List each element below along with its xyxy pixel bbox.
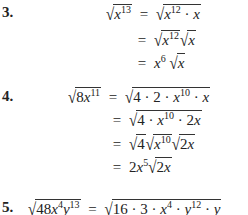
problem-3-line-1: √x13=√x12 · x xyxy=(106,4,201,23)
problem-5-line-1: √48x4y13=√16 · 3 · x4 · y12 · y xyxy=(28,199,221,215)
problem-number-5: 5. xyxy=(2,199,13,215)
problem-4-line-4: =2x5√2x xyxy=(105,157,172,176)
problem-3-line-2: =√x12√x xyxy=(130,30,196,49)
problem-number-3: 3. xyxy=(2,4,13,21)
problem-4-line-1: √8x11=√4 · 2 · x10 · x xyxy=(68,87,210,106)
problem-number-4: 4. xyxy=(2,88,13,105)
problem-4-line-2: =√4 · x10 · 2x xyxy=(105,110,202,129)
problem-4-line-3: =√4√x10√2x xyxy=(105,134,195,153)
problem-3-line-3: =x6 √x xyxy=(130,53,185,72)
